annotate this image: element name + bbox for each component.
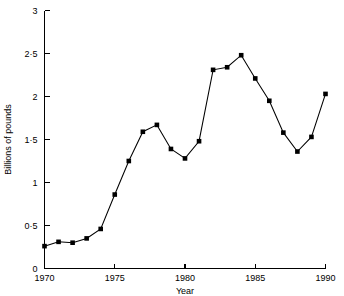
- data-point-marker: [295, 149, 300, 154]
- data-series-line: [45, 55, 326, 246]
- x-tick-label: 1980: [175, 273, 195, 283]
- data-point-marker: [183, 156, 188, 161]
- data-point-marker: [141, 129, 146, 134]
- y-tick-label: 1: [32, 178, 37, 188]
- data-point-marker: [211, 68, 216, 73]
- data-point-marker: [127, 159, 132, 164]
- x-axis-tick-labels: 19701975198019851990: [34, 273, 335, 283]
- chart-plot-area: 00·511·522·53 19701975198019851990 Year …: [0, 0, 344, 296]
- data-point-marker: [56, 240, 61, 245]
- x-tick-label: 1985: [245, 273, 265, 283]
- data-point-marker: [169, 147, 174, 152]
- x-tick-label: 1990: [315, 273, 335, 283]
- data-series-markers: [42, 53, 328, 249]
- data-point-marker: [253, 76, 258, 81]
- y-tick-label: 3: [32, 6, 37, 16]
- y-axis-tick-marks: [45, 11, 50, 269]
- y-axis-tick-labels: 00·511·522·53: [24, 6, 37, 274]
- data-point-marker: [112, 192, 117, 197]
- data-point-marker: [323, 92, 328, 97]
- y-tick-label: 2·5: [24, 49, 37, 59]
- y-tick-label: 1·5: [24, 135, 37, 145]
- y-tick-label: 2: [32, 92, 37, 102]
- data-point-marker: [225, 65, 230, 70]
- x-tick-label: 1975: [105, 273, 125, 283]
- line-chart-figure: 00·511·522·53 19701975198019851990 Year …: [0, 0, 344, 296]
- y-axis-title: Billions of pounds: [3, 104, 13, 175]
- data-point-marker: [281, 130, 286, 135]
- data-point-marker: [197, 139, 202, 144]
- data-point-marker: [267, 99, 272, 104]
- data-point-marker: [98, 227, 103, 232]
- data-point-marker: [309, 135, 314, 140]
- data-point-marker: [239, 53, 244, 58]
- x-axis-title: Year: [176, 286, 194, 296]
- x-tick-label: 1970: [34, 273, 54, 283]
- data-point-marker: [155, 123, 160, 128]
- data-point-marker: [70, 240, 75, 245]
- y-tick-label: 0·5: [24, 221, 37, 231]
- data-point-marker: [42, 244, 47, 249]
- data-point-marker: [84, 236, 89, 241]
- x-axis-tick-marks: [45, 264, 326, 269]
